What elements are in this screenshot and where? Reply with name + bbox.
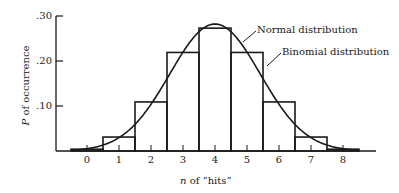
y-tick-20: .20 [28, 56, 52, 66]
x-axis-label: n of “hits” [180, 175, 232, 186]
binomial-bar [231, 52, 263, 151]
normal-curve [71, 24, 359, 150]
x-tick-label: 1 [112, 155, 126, 165]
x-tick-label: 8 [336, 155, 350, 165]
binomial-leader-line [267, 53, 281, 66]
normal-distribution-annotation: Normal distribution [257, 25, 358, 35]
y-axis-label: P of occurrence [20, 41, 31, 131]
x-tick-label: 6 [272, 155, 286, 165]
binomial-bar [263, 102, 295, 151]
x-tick-label: 0 [80, 155, 94, 165]
binomial-bar [135, 102, 167, 151]
x-tick-label: 4 [208, 155, 222, 165]
y-tick-30: .30 [28, 11, 52, 21]
binomial-bar [167, 52, 199, 151]
x-tick-label: 5 [240, 155, 254, 165]
y-tick-10: .10 [28, 101, 52, 111]
x-tick-label: 2 [144, 155, 158, 165]
binomial-distribution-annotation: Binomial distribution [282, 47, 389, 57]
x-tick-label: 3 [176, 155, 190, 165]
normal-leader-line [243, 31, 256, 42]
binomial-bar [199, 28, 231, 151]
x-tick-label: 7 [304, 155, 318, 165]
